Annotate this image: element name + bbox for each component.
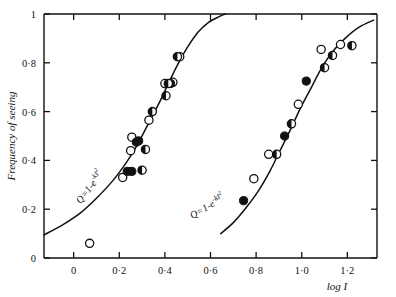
y-tick-label: 0: [31, 253, 36, 264]
data-point-half: [287, 120, 295, 128]
axis-ticks: [44, 14, 377, 258]
x-tick-label: 0: [71, 265, 76, 276]
data-point-open: [145, 116, 153, 124]
svg-text:Q=1-e-kI2: Q=1-e-kI2: [186, 190, 226, 221]
data-point-open: [127, 147, 135, 155]
axis-tick-labels: 00·20·40·60·81·01·200·20·40·60·81: [22, 9, 354, 276]
x-axis-label: log I: [327, 280, 349, 292]
data-point-open: [336, 40, 344, 48]
left-curve-formula: Q=1-e-kI2: [71, 167, 105, 206]
data-point-half: [162, 92, 170, 100]
y-tick-label: 0·4: [22, 155, 37, 166]
x-tick-label: 0·2: [112, 265, 126, 276]
data-point-filled: [302, 77, 310, 85]
data-point-half: [328, 51, 336, 59]
y-tick-label: 0·2: [22, 204, 36, 215]
x-tick-label: 0·6: [204, 265, 218, 276]
right-curve-formula: Q=1-e-kI2: [186, 190, 226, 221]
y-tick-label: 0·8: [22, 58, 36, 69]
data-point-filled: [135, 137, 143, 145]
data-point-half: [138, 166, 146, 174]
data-point-half: [273, 150, 281, 158]
data-points: [86, 40, 356, 247]
data-point-open: [317, 45, 325, 53]
left-fitted-curve: [44, 14, 225, 235]
data-point-filled: [281, 132, 289, 140]
frequency-of-seeing-chart: 00·20·40·60·81·01·200·20·40·60·81 Q=1-e-…: [0, 0, 396, 297]
data-point-open: [294, 100, 302, 108]
data-point-filled: [239, 197, 247, 205]
curve-annotations: Q=1-e-kI2Q=1-e-kI2: [71, 167, 226, 221]
figure-container: 00·20·40·60·81·01·200·20·40·60·81 Q=1-e-…: [0, 0, 396, 297]
data-point-half: [348, 42, 356, 50]
axis-labels: Frequency of seeinglog I: [5, 91, 349, 292]
data-point-half: [141, 145, 149, 153]
x-tick-label: 0·8: [249, 265, 263, 276]
x-tick-label: 1·2: [340, 265, 354, 276]
data-point-filled: [128, 167, 136, 175]
svg-text:Q=1-e-kI2: Q=1-e-kI2: [71, 167, 105, 206]
data-point-open: [250, 175, 258, 183]
x-tick-label: 1·0: [295, 265, 309, 276]
data-point-half: [164, 79, 172, 87]
y-axis-label: Frequency of seeing: [5, 91, 17, 181]
x-tick-label: 0·4: [158, 265, 173, 276]
data-point-half: [320, 64, 328, 72]
data-point-open: [86, 239, 94, 247]
plot-frame: [44, 14, 377, 258]
y-tick-label: 1: [31, 9, 36, 20]
data-point-half: [148, 108, 156, 116]
data-point-open: [265, 150, 273, 158]
data-point-half: [173, 53, 181, 61]
y-tick-label: 0·6: [22, 107, 36, 118]
